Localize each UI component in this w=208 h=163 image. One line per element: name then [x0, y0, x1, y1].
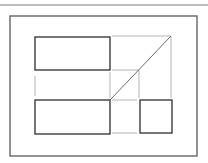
diagonal-line [110, 36, 171, 100]
boxes [35, 37, 172, 134]
diagram-canvas [0, 0, 208, 163]
guide-lines [35, 36, 171, 133]
rect-bottom-left [35, 100, 110, 134]
rect-top-left [35, 37, 110, 70]
proportion-diagram [0, 0, 208, 163]
square-bottom-right [140, 100, 172, 133]
